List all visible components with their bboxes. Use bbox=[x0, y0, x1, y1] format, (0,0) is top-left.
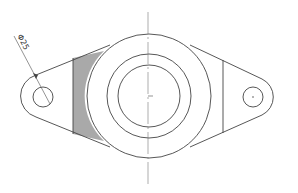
flange-outline bbox=[21, 45, 274, 147]
shaded-section bbox=[73, 51, 104, 141]
right-hole-center-mark bbox=[252, 96, 254, 98]
technical-drawing: Φ25 bbox=[0, 0, 298, 193]
diameter-dimension: Φ25 bbox=[14, 33, 50, 104]
